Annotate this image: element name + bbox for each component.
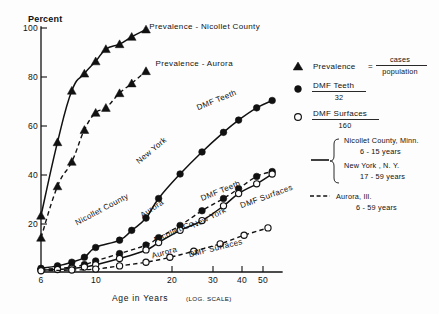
curve-annotation: Prevalence - Aurora: [156, 59, 234, 68]
data-point-open-circle: [236, 191, 242, 197]
legend-label-prevalence: Prevalence: [313, 62, 356, 71]
data-point-filled-circle: [269, 97, 276, 104]
y-tick-label: 80: [28, 72, 38, 82]
y-tick-label: 40: [28, 170, 38, 180]
chart-svg: Percent 100 80 60 40 20: [0, 0, 439, 314]
circle-open-icon: [295, 114, 302, 121]
y-tick-label: 100: [23, 23, 38, 33]
data-point-filled-circle: [220, 129, 227, 136]
legend-equals-sign: =: [368, 62, 373, 71]
data-point-triangle: [37, 211, 46, 219]
curve-annotation: DMF Teeth: [195, 88, 237, 112]
x-tick-label: 10: [91, 275, 101, 285]
data-point-open-circle: [116, 263, 122, 269]
legend-linekey-line: New York , N. Y.: [344, 161, 399, 170]
y-tick-label: 20: [28, 219, 38, 229]
data-point-open-circle: [116, 255, 122, 261]
curve-annotation: DMF Surfaces: [239, 183, 294, 210]
data-point-triangle: [102, 45, 111, 53]
legend-linekey-line: Aurora, Ill.: [336, 192, 372, 201]
legend-entry-dmf-teeth[interactable]: DMF Teeth 32: [295, 81, 366, 102]
triangle-filled-icon: [293, 62, 303, 70]
curve-annotation: Nicollet Co: [153, 219, 196, 245]
data-point-filled-circle: [128, 227, 135, 234]
data-point-triangle: [115, 40, 124, 48]
legend: Prevalence = cases population DMF Teeth …: [293, 55, 427, 212]
legend-linekey-line: 6 - 15 years: [360, 147, 401, 156]
data-point-filled-circle: [92, 244, 99, 251]
data-point-open-circle: [93, 266, 99, 272]
data-point-filled-circle: [199, 207, 206, 214]
y-tick-label: 60: [28, 121, 38, 131]
x-tick-label: 30: [208, 275, 218, 285]
data-point-open-circle: [269, 171, 275, 177]
data-point-triangle: [127, 33, 136, 41]
data-point-triangle: [67, 86, 76, 94]
curve-annotation: New York: [135, 135, 169, 166]
legend-linekey-line: Nicollet County, Minn.: [344, 136, 419, 145]
data-point-filled-circle: [253, 173, 260, 180]
data-point-triangle: [142, 67, 151, 75]
curve-annotation: Aurora: [139, 198, 166, 220]
brace-icon: [330, 139, 339, 183]
data-point-filled-circle: [253, 105, 260, 112]
data-point-open-circle: [54, 266, 60, 272]
circle-filled-icon: [295, 86, 302, 93]
x-tick-label: 50: [258, 275, 268, 285]
data-point-filled-circle: [199, 149, 206, 156]
legend-value-dmf-surfaces: 160: [339, 121, 352, 130]
data-point-filled-circle: [116, 237, 123, 244]
series-0: [37, 25, 151, 219]
data-point-filled-circle: [235, 117, 242, 124]
data-point-open-circle: [143, 259, 149, 265]
data-point-filled-circle: [220, 195, 227, 202]
legend-fraction-denominator: population: [382, 67, 418, 76]
legend-linekey-line: 6 - 59 years: [356, 203, 397, 212]
legend-label-dmf-surfaces: DMF Surfaces: [313, 109, 367, 118]
chart-figure: Percent 100 80 60 40 20: [0, 0, 439, 314]
curve-annotation: Prevalence - Nicollet County: [149, 22, 260, 31]
legend-linekey-line: 17 - 59 years: [360, 172, 405, 181]
legend-fraction-numerator: cases: [390, 55, 410, 64]
x-tick-labels: 6 10 20 30 40 50: [38, 275, 268, 285]
data-point-filled-circle: [81, 254, 88, 261]
data-point-open-circle: [143, 247, 149, 253]
data-point-triangle: [67, 157, 76, 165]
x-axis-title-note: (LOG. SCALE): [186, 295, 232, 302]
series-line: [41, 228, 268, 271]
legend-label-dmf-teeth: DMF Teeth: [313, 81, 354, 90]
data-point-filled-circle: [177, 171, 184, 178]
y-tick-labels: 100 80 60 40 20: [23, 23, 38, 229]
legend-value-dmf-teeth: 32: [335, 93, 344, 102]
data-point-open-circle: [38, 268, 44, 274]
data-point-open-circle: [241, 232, 247, 238]
legend-entry-dmf-surfaces[interactable]: DMF Surfaces 160: [295, 109, 379, 130]
curve-annotation: New York: [191, 205, 228, 229]
x-tick-label: 20: [167, 275, 177, 285]
data-point-triangle: [91, 108, 100, 116]
data-point-triangle: [53, 182, 62, 190]
x-tick-label: 40: [237, 275, 247, 285]
data-point-open-circle: [265, 225, 271, 231]
x-axis-title: Age in Years: [112, 293, 168, 303]
data-point-triangle: [37, 233, 46, 241]
data-point-open-circle: [69, 267, 75, 273]
data-point-triangle: [102, 104, 111, 112]
data-point-triangle: [53, 138, 62, 146]
curve-annotation: DMF Surfaces: [188, 237, 244, 259]
x-tick-label: 6: [38, 275, 43, 285]
legend-entry-prevalence[interactable]: Prevalence = cases population: [293, 55, 427, 76]
curve-annotations-layer: Prevalence - Nicollet CountyPrevalence -…: [74, 22, 294, 260]
data-point-open-circle: [254, 181, 260, 187]
legend-linekey-solid[interactable]: Nicollet County, Minn. 6 - 15 years New …: [311, 136, 419, 183]
legend-linekey-dashed[interactable]: Aurora, Ill. 6 - 59 years: [310, 192, 397, 212]
curve-annotation: Nicollet County: [74, 192, 130, 228]
data-point-triangle: [80, 126, 89, 134]
